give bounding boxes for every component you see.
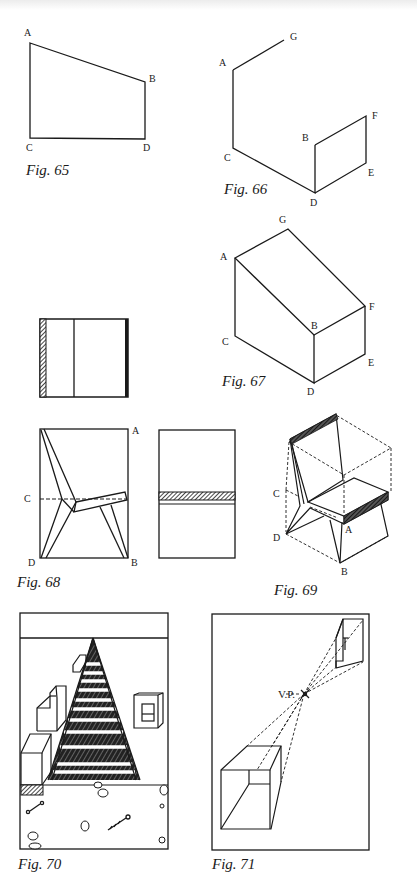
label-f: F — [372, 111, 378, 121]
label-a: A — [219, 58, 226, 68]
figure-caption: Fig. 65 — [26, 162, 69, 178]
label-d: D — [143, 143, 150, 153]
figure-70: Fig. 70 — [0, 600, 200, 876]
label-c: C — [273, 489, 280, 499]
figure-68-top-view — [0, 300, 200, 410]
label-c: C — [26, 143, 33, 153]
label-f: F — [369, 302, 375, 312]
open-box-edges-drawing — [200, 0, 417, 200]
label-b: B — [149, 74, 156, 84]
label-g: G — [279, 215, 286, 225]
label-a: A — [220, 252, 227, 262]
label-c: C — [222, 337, 229, 347]
figure-66: A G B F C D E Fig. 66 — [200, 0, 417, 200]
label-a: A — [24, 28, 31, 38]
label-e: E — [368, 358, 374, 368]
label-c: C — [224, 153, 231, 163]
chair-isometric-drawing — [240, 410, 417, 610]
figure-caption: Fig. 69 — [274, 582, 317, 598]
label-a: A — [132, 426, 139, 436]
label-b: B — [311, 321, 318, 331]
figure-71: V.P. Fig. 71 — [200, 600, 417, 876]
label-d: D — [28, 558, 35, 568]
figure-69: C A D B Fig. 69 — [240, 410, 417, 610]
label-e: E — [368, 168, 374, 178]
figure-68: A C D B Fig. 68 — [0, 410, 250, 600]
railroad-perspective-drawing — [0, 600, 200, 876]
label-b: B — [341, 567, 348, 577]
label-g: G — [290, 32, 297, 42]
vanishing-point-label: V.P. — [278, 689, 295, 699]
chair-plan-drawing — [0, 300, 200, 410]
label-b: B — [131, 558, 138, 568]
figure-caption: Fig. 66 — [224, 181, 267, 197]
figure-caption: Fig. 67 — [222, 373, 265, 389]
vanishing-point-drawing — [200, 600, 417, 876]
figure-65: A B C D Fig. 65 — [0, 0, 200, 200]
figure-caption: Fig. 68 — [17, 574, 60, 590]
figure-67: A G B F C D E Fig. 67 — [200, 200, 417, 420]
label-c: C — [24, 494, 31, 504]
label-d: D — [307, 387, 314, 397]
chair-orthographic-drawing — [0, 410, 250, 600]
figure-caption: Fig. 71 — [212, 856, 255, 872]
label-d: D — [273, 533, 280, 543]
figure-caption: Fig. 70 — [18, 856, 61, 872]
label-a: A — [345, 525, 352, 535]
label-b: B — [302, 133, 309, 143]
